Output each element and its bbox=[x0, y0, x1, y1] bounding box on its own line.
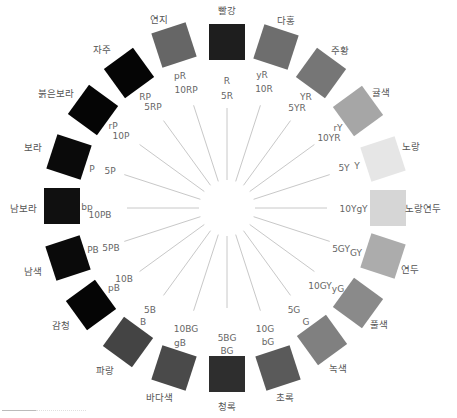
hue-code-label: pR bbox=[174, 72, 186, 81]
hue-code-label: BG bbox=[221, 347, 234, 356]
radial-line-5rp bbox=[164, 121, 211, 186]
radial-line-10bg bbox=[194, 235, 219, 311]
hue-name: 파랑 bbox=[96, 366, 114, 376]
hue-name: 노랑 bbox=[402, 142, 420, 152]
radial-line-5b bbox=[164, 231, 211, 296]
radial-line-10g bbox=[236, 235, 261, 311]
radial-line-5yr bbox=[244, 121, 291, 186]
hue-name: 녹색 bbox=[329, 364, 347, 374]
hue-code-label: YR bbox=[300, 93, 312, 102]
hue-tick-label: 10BG bbox=[174, 325, 198, 334]
hue-code-label: bG bbox=[262, 338, 275, 347]
hue-name: 연지 bbox=[150, 15, 168, 25]
footer-rule bbox=[2, 410, 36, 411]
hue-code-label: PB bbox=[87, 246, 99, 255]
hue-name: 연두 bbox=[401, 265, 419, 275]
swatch-BG bbox=[209, 356, 245, 392]
footer-dotted-rule bbox=[36, 410, 86, 412]
hue-tick-label: 5P bbox=[104, 167, 115, 176]
hue-code-label: yR bbox=[256, 71, 268, 80]
hue-name: 붉은보라 bbox=[38, 89, 74, 99]
hue-code-label: rP bbox=[108, 122, 117, 131]
hue-name: 노랑연두 bbox=[405, 204, 441, 214]
radial-line-10yr bbox=[250, 145, 315, 192]
hue-tick-label: 10P bbox=[113, 132, 130, 141]
hue-tick-label: 10YR bbox=[317, 134, 340, 143]
hue-code-label: gB bbox=[174, 339, 186, 348]
hue-tick-label: 5RP bbox=[144, 103, 161, 112]
radial-line-5gy bbox=[254, 217, 330, 242]
radial-line-10r bbox=[236, 105, 261, 181]
hue-code-label: R bbox=[224, 77, 230, 86]
hue-code-label: yG bbox=[332, 285, 344, 294]
hue-tick-label: 5Y bbox=[338, 164, 349, 173]
hue-code-label: GY bbox=[350, 249, 362, 258]
radial-line-5g bbox=[244, 231, 291, 296]
hue-tick-label: 10Y bbox=[340, 205, 357, 214]
hue-tick-label: 5G bbox=[288, 306, 301, 315]
hue-tick-label: 10GY bbox=[308, 282, 331, 291]
radial-line-10rp bbox=[194, 105, 219, 181]
hue-tick-label: 10G bbox=[256, 325, 274, 334]
hue-tick-label: 10B bbox=[115, 275, 133, 284]
hue-code-label: Y bbox=[354, 162, 360, 171]
hue-name: 귤색 bbox=[372, 88, 390, 98]
radial-line-10gy bbox=[250, 225, 315, 272]
hue-tick-label: 10RP bbox=[174, 86, 197, 95]
radial-line-10b bbox=[140, 225, 205, 272]
hue-name: 초록 bbox=[276, 393, 294, 403]
hue-name: 주황 bbox=[331, 46, 349, 56]
hue-code-label: pB bbox=[108, 284, 120, 293]
radial-line-5y bbox=[254, 175, 330, 200]
hue-code-label: gY bbox=[356, 205, 367, 214]
hue-tick-label: 5BG bbox=[218, 334, 237, 343]
hue-tick-label: 10R bbox=[255, 85, 273, 94]
hue-tick-label: 5B bbox=[144, 306, 156, 315]
hue-name: 풀색 bbox=[370, 320, 388, 330]
hue-tick-label: 5R bbox=[221, 92, 233, 101]
hue-name: 남색 bbox=[24, 267, 42, 277]
hue-name: 다홍 bbox=[277, 16, 295, 26]
hue-code-label: G bbox=[303, 318, 310, 327]
hue-code-label: RP bbox=[139, 93, 151, 102]
swatch-bp bbox=[44, 188, 80, 224]
hue-name: 보라 bbox=[24, 143, 42, 153]
hue-name: 남보라 bbox=[10, 204, 37, 214]
hue-tick-label: 5GY bbox=[332, 245, 350, 254]
swatch-R bbox=[209, 24, 245, 60]
hue-code-label: rY bbox=[333, 124, 342, 133]
hue-name: 청록 bbox=[218, 402, 236, 412]
hue-tick-label: 5YR bbox=[288, 104, 305, 113]
hue-name: 바다색 bbox=[146, 393, 173, 403]
hue-code-label: P bbox=[89, 165, 94, 174]
hue-name: 감청 bbox=[52, 321, 70, 331]
hue-name: 빨강 bbox=[218, 6, 236, 16]
hue-tick-label: 5PB bbox=[102, 244, 119, 253]
radial-line-5pb bbox=[124, 217, 200, 242]
radial-line-5p bbox=[124, 175, 200, 200]
hue-tick-label: 10PB bbox=[88, 211, 111, 220]
hue-name: 자주 bbox=[93, 45, 111, 55]
hue-code-label: B bbox=[140, 318, 146, 327]
swatch-gY bbox=[370, 190, 406, 226]
radial-line-10p bbox=[140, 145, 205, 192]
